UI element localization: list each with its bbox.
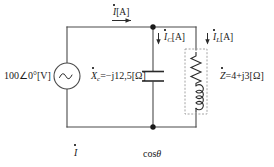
circuit-diagram: 100∠0°[V] Xc=−j12,5[Ω] Z=4+j3[Ω] I[A] IC… — [0, 0, 274, 167]
capacitor-reactance-value: =−j12,5[Ω] — [100, 70, 146, 81]
impedance-dashed-box — [185, 49, 207, 114]
capacitor-reactance-symbol: X — [91, 70, 97, 81]
bottom-current-symbol: I — [74, 147, 77, 158]
inductor-symbol — [196, 85, 203, 112]
impedance-symbol: Z — [220, 70, 226, 81]
current-arrow-impedance — [205, 33, 209, 45]
source-voltage-label: 100∠0°[V] — [4, 71, 51, 81]
capacitor-reactance-label: Xc=−j12,5[Ω] — [91, 71, 146, 83]
total-current-unit: [A] — [116, 7, 129, 17]
power-factor-angle: θ — [156, 148, 161, 159]
circuit-schematic — [0, 0, 274, 167]
total-current-label: I[A] — [113, 8, 129, 18]
impedance-current-symbol: I — [213, 32, 216, 42]
node-dot-top — [150, 24, 155, 29]
impedance-current-label: IL[A] — [213, 33, 233, 44]
resistor-symbol — [191, 52, 201, 86]
current-arrow-capacitor — [156, 33, 160, 45]
ac-source-symbol — [54, 63, 80, 89]
impedance-current-unit: [A] — [220, 32, 233, 42]
power-factor-function: cos — [143, 148, 156, 159]
power-factor-annotation: cosθ — [143, 149, 161, 159]
current-arrow-total — [112, 18, 131, 23]
impedance-value: =4+j3[Ω] — [226, 70, 264, 81]
impedance-label: Z=4+j3[Ω] — [220, 71, 264, 81]
bottom-current-annotation: I — [74, 148, 77, 158]
total-current-symbol: I — [113, 7, 116, 17]
capacitor-current-unit: [A] — [172, 32, 185, 42]
capacitor-current-symbol: I — [164, 32, 167, 42]
node-dot-bottom — [150, 124, 155, 129]
capacitor-current-label: IC[A] — [164, 33, 185, 44]
